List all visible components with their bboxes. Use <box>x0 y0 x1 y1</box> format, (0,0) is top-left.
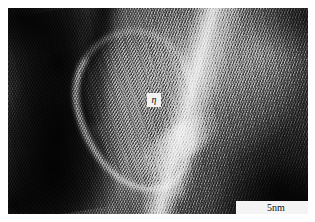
hrtem-micrograph-image: η 5nm <box>8 8 308 214</box>
micrograph-vignette <box>8 8 308 214</box>
figure-root: η 5nm <box>0 0 315 222</box>
scale-bar-label: 5nm <box>236 201 308 214</box>
phase-label-eta: η <box>147 93 161 107</box>
scale-bar: 5nm <box>236 201 308 214</box>
